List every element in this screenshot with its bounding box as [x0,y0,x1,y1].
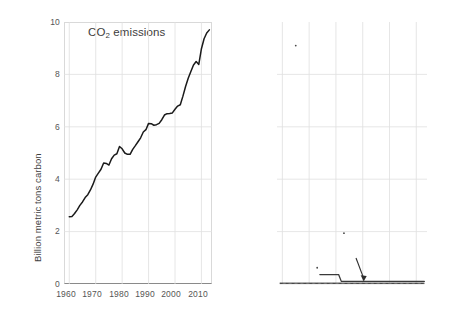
chart-title-co2-subscript: 2 [105,31,110,40]
y-tick-left-2: 2 [40,226,60,236]
y-tick-left-10: 10 [40,17,60,27]
panel-drought-death-rate: Deaths per million persons Death rate fr… [221,0,445,317]
chart-title-co2: CO2 emissions [88,26,165,38]
y-tick-left-8: 8 [40,69,60,79]
panel-co2-emissions: Billion metric tons carbon CO2 emissions… [0,0,224,317]
plot-area-co2 [64,22,212,284]
y-tick-left-6: 6 [40,122,60,132]
chart-title-co2-main: CO [88,26,105,38]
y-tick-left-4: 4 [40,174,60,184]
y-tick-left-0: 0 [40,279,60,289]
two-panel-figure: Billion metric tons carbon CO2 emissions… [0,0,449,317]
x-tick-left-2010: 2010 [178,289,218,299]
chart-title-co2-rest: emissions [110,26,165,38]
y-axis-label-left: Billion metric tons carbon [32,153,43,262]
